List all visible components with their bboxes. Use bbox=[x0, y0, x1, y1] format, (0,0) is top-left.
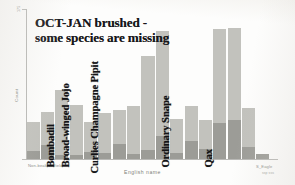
species-annotation-3: Curlies Champagne Pipit bbox=[90, 61, 101, 173]
x-axis-tick-sublabel: ssp sss bbox=[262, 171, 274, 175]
bar-12 bbox=[185, 106, 198, 159]
bar-9 bbox=[141, 56, 154, 159]
bar-1-lower-segment bbox=[27, 151, 40, 159]
y-axis-tick-bottom bbox=[22, 159, 26, 160]
bar-7-lower-segment bbox=[113, 144, 126, 159]
y-axis-tick-top bbox=[22, 9, 26, 10]
y-axis-tick-label-max: 175 bbox=[17, 6, 21, 12]
species-annotation-4: Ordinary Snape bbox=[162, 96, 173, 168]
bar-9-upper-segment bbox=[141, 56, 154, 150]
bar-15-lower-segment bbox=[228, 120, 241, 159]
bar-14-lower-segment bbox=[213, 123, 226, 159]
bar-16-lower-segment bbox=[242, 147, 255, 159]
x-axis-tick-label-last: S_Eagle bbox=[256, 164, 273, 169]
bar-7-upper-segment bbox=[113, 110, 126, 144]
bar-15 bbox=[228, 28, 241, 159]
bar-14-upper-segment bbox=[213, 29, 226, 123]
bar-1 bbox=[27, 122, 40, 159]
y-axis-title: Count bbox=[14, 89, 19, 102]
bar-7 bbox=[113, 110, 126, 159]
bar-8-upper-segment bbox=[127, 106, 140, 154]
y-axis-line bbox=[26, 9, 27, 160]
chart-title-line-2: some species are missing bbox=[35, 31, 169, 46]
bar-13-upper-segment bbox=[199, 120, 212, 149]
bar-16-upper-segment bbox=[242, 108, 255, 147]
bar-8 bbox=[127, 106, 140, 159]
chart-title: OCT-JAN brushed - some species are missi… bbox=[35, 16, 169, 45]
bar-14 bbox=[213, 29, 226, 159]
bar-9-lower-segment bbox=[141, 150, 154, 159]
bar-chart-figure: OCT-JAN brushed - some species are missi… bbox=[0, 0, 295, 185]
bar-12-lower-segment bbox=[185, 141, 198, 159]
species-annotation-1: Bombadil bbox=[47, 124, 58, 167]
species-annotation-5: Qax bbox=[205, 149, 216, 168]
bar-15-upper-segment bbox=[228, 28, 241, 121]
bar-11 bbox=[170, 119, 183, 159]
bar-12-upper-segment bbox=[185, 106, 198, 141]
bar-11-upper-segment bbox=[170, 119, 183, 153]
x-axis-title: English name bbox=[124, 169, 161, 175]
species-annotation-2: Broad-winged Jojo bbox=[61, 83, 72, 167]
bar-1-upper-segment bbox=[27, 122, 40, 151]
chart-title-line-1: OCT-JAN brushed - bbox=[35, 16, 169, 31]
bar-16 bbox=[242, 108, 255, 159]
